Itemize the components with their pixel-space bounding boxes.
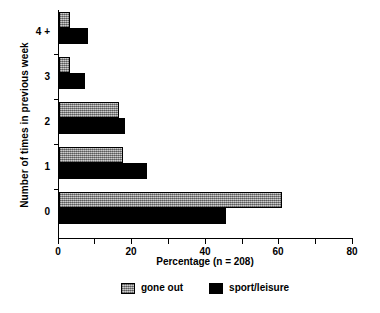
x-axis-tick: [278, 239, 279, 244]
bar-chart: Number of times in previous week 4 + 3 2…: [0, 0, 380, 313]
y-axis-tick: [54, 99, 58, 100]
y-category-label-3: 3: [10, 71, 50, 82]
bar-sport-leisure-2: [59, 118, 125, 134]
x-axis-tick-minor: [242, 239, 243, 244]
bar-gone-out-1: [59, 147, 123, 163]
y-axis-tick: [54, 144, 58, 145]
y-category-label-1: 1: [10, 161, 50, 172]
x-axis-title: Percentage (n = 208): [58, 256, 352, 268]
bar-gone-out-0: [59, 192, 282, 208]
x-axis-tick: [205, 239, 206, 244]
legend-item-gone-out: gone out: [121, 282, 183, 294]
x-axis-tick-minor: [94, 239, 95, 244]
black-swatch-icon: [209, 283, 223, 294]
x-axis-tick: [352, 239, 353, 244]
plot-area: 4 + 3 2 1 0 0 20 40 60: [58, 10, 352, 238]
y-category-label-4plus: 4 +: [10, 26, 50, 37]
x-axis-tick-minor: [168, 239, 169, 244]
bar-gone-out-2: [59, 102, 119, 118]
legend-label-gone-out: gone out: [141, 282, 183, 294]
legend-label-sport-leisure: sport/leisure: [229, 282, 289, 294]
bar-sport-leisure-1: [59, 163, 147, 179]
chart-legend: gone out sport/leisure: [58, 282, 352, 294]
y-category-label-2: 2: [10, 116, 50, 127]
bar-sport-leisure-3: [59, 73, 85, 89]
legend-item-sport-leisure: sport/leisure: [209, 282, 289, 294]
gray-hatched-swatch-icon: [121, 283, 135, 294]
y-category-label-0: 0: [10, 206, 50, 217]
bar-gone-out-3: [59, 57, 70, 73]
x-axis-tick: [131, 239, 132, 244]
y-axis-tick: [54, 54, 58, 55]
bar-sport-leisure-0: [59, 208, 226, 224]
y-axis-tick: [54, 189, 58, 190]
x-axis-tick-minor: [315, 239, 316, 244]
x-axis-tick: [58, 239, 59, 244]
bar-gone-out-4plus: [59, 12, 70, 28]
bar-sport-leisure-4plus: [59, 28, 88, 44]
